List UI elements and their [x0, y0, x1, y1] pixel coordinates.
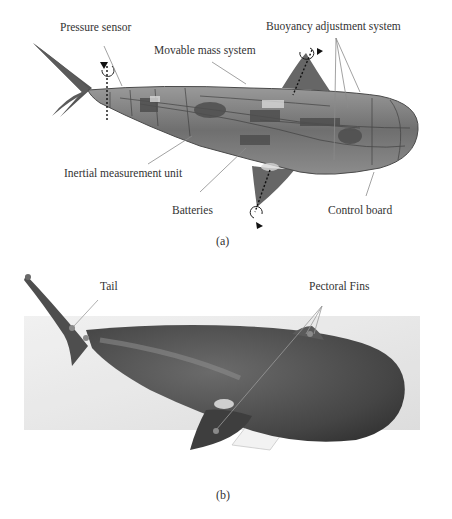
panel-a-graphic [0, 0, 452, 519]
caption-panel-b: (b) [216, 489, 230, 501]
label-control-board: Control board [328, 205, 392, 217]
dorsal-fin-a [282, 53, 330, 91]
caption-panel-a: (a) [216, 235, 229, 247]
label-pectoral-fins: Pectoral Fins [309, 281, 369, 293]
figure: Pressure sensor Movable mass system Buoy… [0, 0, 452, 519]
label-buoyancy-adjustment-system: Buoyancy adjustment system [266, 21, 401, 33]
label-batteries: Batteries [172, 205, 213, 217]
label-pressure-sensor: Pressure sensor [60, 22, 131, 34]
label-movable-mass-system: Movable mass system [154, 45, 256, 57]
label-tail: Tail [100, 281, 118, 293]
label-inertial-measurement-unit: Inertial measurement unit [64, 168, 182, 180]
